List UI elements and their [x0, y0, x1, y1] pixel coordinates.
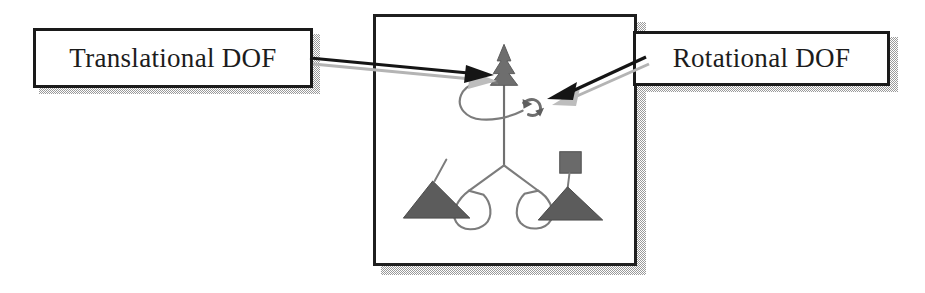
upper-loop-link — [460, 81, 523, 120]
rotational-box-shadow-bottom — [639, 86, 898, 92]
mechanism-frame-shadow-bottom — [381, 266, 646, 275]
rotational-box-shadow-right — [890, 37, 898, 92]
left-lower-leg — [469, 165, 504, 190]
figure-canvas: Translational DOF Rotational DOF — [0, 0, 925, 293]
callout-rotational-dof-label: Rotational DOF — [673, 45, 850, 72]
mechanism-illustration-frame — [373, 14, 637, 266]
rotational-curved-marker — [523, 99, 545, 117]
left-foot-cone — [403, 160, 469, 219]
translational-box-shadow-bottom — [39, 88, 320, 94]
callout-translational-dof-label: Translational DOF — [69, 45, 276, 72]
mechanism-drawing — [376, 17, 634, 263]
right-foot-cone — [538, 152, 603, 220]
translational-box-shadow-right — [313, 34, 320, 94]
translational-cone-marker — [490, 44, 517, 85]
callout-rotational-dof[interactable]: Rotational DOF — [633, 31, 890, 86]
callout-translational-dof[interactable]: Translational DOF — [33, 28, 313, 88]
right-lower-leg — [504, 165, 538, 190]
right-cube-end-effector — [560, 152, 582, 173]
